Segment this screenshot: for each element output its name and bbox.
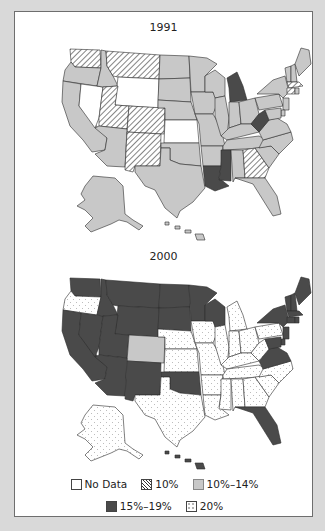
state-ct [287,88,295,94]
state-wa [70,49,101,68]
legend-label: 10% [155,478,178,490]
legend-label: 15%–19% [120,500,172,512]
state-mt [106,51,160,79]
state-nd [159,55,190,79]
state-co [127,335,165,363]
hatch-swatch-icon [141,479,152,490]
state-me [295,277,311,305]
legend-item-20: 20% [186,500,223,512]
state-wy [115,306,159,337]
state-ms [219,150,231,181]
state-fl [235,178,281,216]
state-pa [255,94,283,110]
state-de [281,339,285,345]
legend-label: 20% [200,500,223,512]
state-nj [283,327,289,339]
state-ar [201,146,223,166]
us-map-2000 [15,265,314,470]
state-ma [287,82,303,88]
state-ct [287,317,295,323]
gray-swatch-icon [193,479,204,490]
legend-label: No Data [85,478,128,490]
state-ri [295,88,299,94]
state-pa [255,323,283,339]
map-title-1991: 1991 [15,21,312,34]
state-al [231,150,245,182]
state-al [231,379,245,411]
state-me [295,48,311,76]
state-sd [158,78,191,102]
state-fl [235,407,281,445]
state-sd [158,307,191,331]
state-ar [201,375,223,395]
state-wa [70,278,101,297]
chart-frame: 1991 2000 No Data 10% 10%–14% 15%–19% [14,11,313,517]
state-ks [164,349,199,372]
legend-item-no-data: No Data [71,478,128,490]
us-map-1991 [15,36,314,241]
state-ks [164,120,199,143]
state-mt [106,280,160,308]
state-nj [283,98,289,110]
state-ri [295,317,299,323]
dots-swatch-icon [186,501,197,512]
state-mi [227,72,247,102]
state-hi [165,451,205,469]
state-ma [287,311,303,317]
state-wy [115,77,159,108]
map-title-2000: 2000 [15,250,312,263]
legend-item-15-19: 15%–19% [106,500,172,512]
legend-label: 10%–14% [207,478,259,490]
legend-item-10: 10% [141,478,178,490]
state-de [281,110,285,116]
legend-item-10-14: 10%–14% [193,478,259,490]
dark-swatch-icon [106,501,117,512]
state-ak [77,405,143,461]
no-data-swatch-icon [71,479,82,490]
state-mi [227,301,247,331]
state-co [127,106,165,134]
legend: No Data 10% 10%–14% 15%–19% 20% [15,473,314,517]
state-ms [219,379,231,410]
state-hi [165,222,205,240]
state-ak [77,176,143,232]
state-nd [159,284,190,308]
